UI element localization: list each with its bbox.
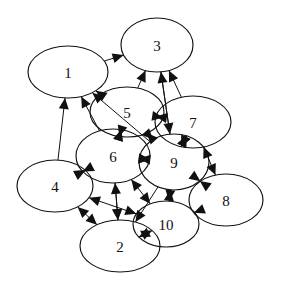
edge-7-to-3 <box>169 70 182 97</box>
node-label: 5 <box>123 105 131 121</box>
graph-node-8[interactable]: 8 <box>189 174 263 226</box>
arrowhead-icon <box>124 206 136 215</box>
arrowhead-icon <box>59 98 69 109</box>
arrowhead-icon <box>112 209 122 220</box>
arrowhead-icon <box>81 97 91 109</box>
node-layer: 13576948102 <box>17 18 263 272</box>
node-label: 7 <box>189 115 197 131</box>
edge-5-to-3 <box>136 71 145 88</box>
node-label: 9 <box>170 155 178 171</box>
node-label: 8 <box>222 193 230 209</box>
edge-4-to-1 <box>58 98 69 160</box>
edge-2-to-4 <box>78 207 97 225</box>
node-label: 1 <box>64 65 72 81</box>
edge-10-to-6 <box>131 179 150 203</box>
node-label: 6 <box>109 149 117 165</box>
node-label: 2 <box>116 239 124 255</box>
arrowhead-icon <box>89 196 101 205</box>
graph-canvas: 13576948102 <box>0 0 282 288</box>
graph-node-1[interactable]: 1 <box>28 46 108 98</box>
graph-node-3[interactable]: 3 <box>121 18 193 72</box>
graph-node-5[interactable]: 5 <box>90 87 164 137</box>
node-label: 4 <box>51 179 59 195</box>
edge-1-to-3 <box>104 54 123 64</box>
node-label: 3 <box>153 38 161 54</box>
arrowhead-icon <box>112 54 124 64</box>
arrowhead-icon <box>131 179 142 191</box>
edge-10-to-4 <box>89 196 136 215</box>
graph-node-2[interactable]: 2 <box>80 220 160 272</box>
edge-9-to-10 <box>164 190 175 202</box>
node-label: 10 <box>159 217 174 233</box>
graph-node-4[interactable]: 4 <box>17 160 93 212</box>
directed-graph-figure: 13576948102 <box>0 0 282 288</box>
graph-node-9[interactable]: 9 <box>139 134 209 190</box>
